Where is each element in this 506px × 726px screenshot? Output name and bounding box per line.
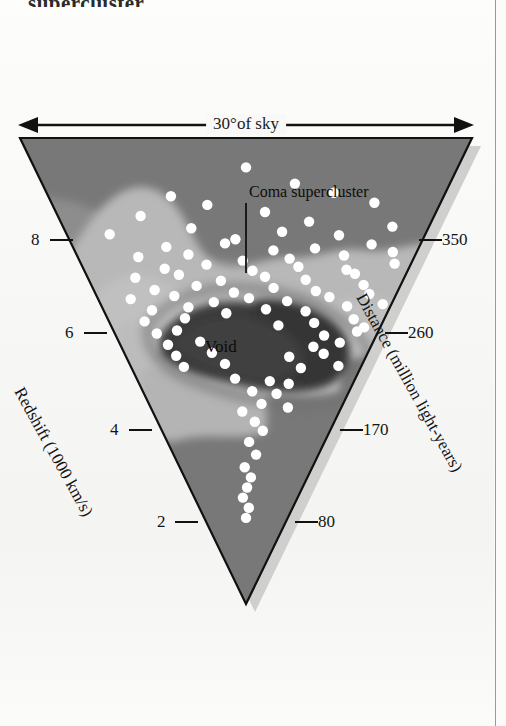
right-tick-label-80: 80 <box>318 512 335 532</box>
void-label: Void <box>205 337 237 357</box>
right-tick-label-260: 260 <box>408 323 434 343</box>
wedge-svg <box>0 0 506 726</box>
right-tick-label-350: 350 <box>442 230 468 250</box>
left-tick-label-4: 4 <box>110 420 119 440</box>
coma-supercluster-label: Coma supercluster <box>249 183 369 201</box>
left-tick-label-6: 6 <box>65 323 74 343</box>
sky-width-label: 30°of sky <box>206 114 286 134</box>
wedge-diagram <box>0 0 506 726</box>
right-tick-label-170: 170 <box>363 420 389 440</box>
left-tick-label-2: 2 <box>157 512 166 532</box>
left-tick-label-8: 8 <box>31 230 40 250</box>
figure-page: supercluster 30°of sky <box>0 0 506 726</box>
